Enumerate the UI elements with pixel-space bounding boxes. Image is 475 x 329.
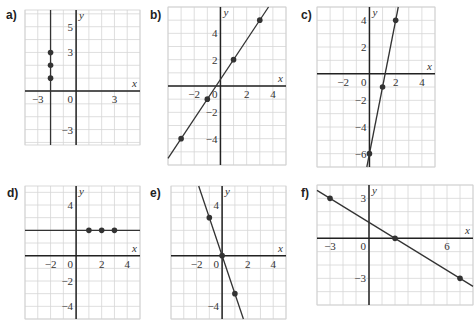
y-axis-label: y xyxy=(78,9,84,21)
data-point xyxy=(99,228,105,234)
y-tick-label: −4 xyxy=(355,121,367,133)
x-tick-label: 3 xyxy=(112,93,118,105)
grid xyxy=(317,7,435,167)
data-point xyxy=(367,151,373,157)
x-tick-label: 4 xyxy=(270,88,276,100)
x-tick-label: 2 xyxy=(99,258,105,270)
y-tick-label: −3 xyxy=(61,124,73,136)
origin-label: 0 xyxy=(68,258,74,270)
grid xyxy=(25,10,140,145)
x-axis-label: x xyxy=(277,72,283,84)
origin-label: 0 xyxy=(68,93,74,105)
x-axis-label: x xyxy=(131,77,137,89)
data-point xyxy=(112,228,118,234)
data-point xyxy=(48,50,54,56)
data-point xyxy=(380,84,386,90)
data-point xyxy=(231,57,237,63)
graph-b-label: b) xyxy=(150,8,161,22)
x-tick-label: −2 xyxy=(188,88,200,100)
graph-e-label: e) xyxy=(150,186,161,200)
graph-c-plot: xy−22442−2−4−60 xyxy=(317,7,435,167)
data-point xyxy=(257,17,263,23)
y-tick-label: 4 xyxy=(212,27,218,39)
plotted-line xyxy=(199,186,244,319)
y-tick-label: −2 xyxy=(355,94,367,106)
y-tick-label: 5 xyxy=(68,21,74,33)
x-tick-label: 2 xyxy=(245,258,251,270)
y-tick-label: −2 xyxy=(61,275,73,287)
data-point xyxy=(205,96,211,102)
data-point xyxy=(393,18,399,24)
x-tick-label: −2 xyxy=(45,258,57,270)
y-tick-label: 4 xyxy=(68,199,74,211)
data-point xyxy=(392,236,398,242)
y-tick-label: 4 xyxy=(361,14,367,26)
y-tick-label: −4 xyxy=(207,300,219,312)
x-tick-label: −3 xyxy=(32,93,44,105)
x-tick-label: −2 xyxy=(191,258,203,270)
y-tick-label: 2 xyxy=(361,41,367,53)
y-axis-label: y xyxy=(224,185,230,197)
x-tick-label: 6 xyxy=(444,240,450,252)
data-point xyxy=(48,75,54,81)
origin-label: 0 xyxy=(214,258,220,270)
x-tick-label: −3 xyxy=(324,240,336,252)
graph-c-label: c) xyxy=(301,8,312,22)
y-tick-label: 3 xyxy=(68,46,74,58)
graph-d-label: d) xyxy=(7,186,18,200)
data-point xyxy=(86,228,92,234)
y-axis-label: y xyxy=(222,6,228,18)
y-tick-label: 4 xyxy=(214,199,220,211)
data-point xyxy=(178,136,184,142)
x-axis-label: x xyxy=(131,242,137,254)
data-point xyxy=(327,196,333,202)
data-point xyxy=(48,62,54,68)
y-tick-label: 3 xyxy=(361,192,367,204)
x-axis-label: x xyxy=(464,224,470,236)
graph-f-label: f) xyxy=(301,186,309,200)
grid xyxy=(171,186,286,319)
y-tick-label: −4 xyxy=(61,300,73,312)
graph-e-plot: xy−2244−40 xyxy=(171,186,286,319)
origin-label: 0 xyxy=(361,76,367,88)
plotted-line xyxy=(168,7,269,158)
x-axis-label: x xyxy=(277,242,283,254)
origin-label: 0 xyxy=(361,240,367,252)
y-tick-label: −6 xyxy=(355,148,367,160)
y-tick-label: −4 xyxy=(206,133,218,145)
y-axis-label: y xyxy=(78,185,84,197)
y-axis-label: y xyxy=(371,6,377,18)
x-tick-label: −2 xyxy=(337,76,349,88)
grid xyxy=(25,186,140,319)
y-tick-label: −3 xyxy=(354,272,366,284)
x-tick-label: 2 xyxy=(393,76,399,88)
graph-d-plot: xy−2244−2−40 xyxy=(25,186,140,319)
graph-a-plot: xy−3353−30 xyxy=(25,10,140,145)
x-axis-label: x xyxy=(426,60,432,72)
data-point xyxy=(232,291,238,297)
x-tick-label: 4 xyxy=(124,258,130,270)
data-point xyxy=(207,215,213,221)
y-tick-label: 2 xyxy=(212,54,218,66)
graph-a-label: a) xyxy=(6,8,17,22)
data-point xyxy=(457,276,463,282)
x-tick-label: 4 xyxy=(270,258,276,270)
data-point xyxy=(219,253,225,259)
graph-f-plot: xy−363−30 xyxy=(317,185,473,305)
y-axis-label: y xyxy=(371,184,377,196)
x-tick-label: 4 xyxy=(419,76,425,88)
y-tick-label: −2 xyxy=(206,106,218,118)
x-tick-label: 2 xyxy=(244,88,250,100)
graph-b-plot: xy−22442−2−40 xyxy=(168,7,286,165)
